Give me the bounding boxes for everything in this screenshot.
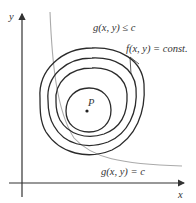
constraint-curve-label: g(x, y) = c: [101, 166, 145, 178]
contour-inner: [66, 88, 111, 132]
constraint-curve: [50, 12, 182, 166]
constraint-region-label: g(x, y) ≤ c: [93, 22, 136, 34]
x-axis-label: x: [177, 189, 183, 200]
level-curves-label: f(x, y) = const.: [126, 43, 188, 55]
point-p-label: P: [87, 97, 95, 108]
lagrange-diagram: P g(x, y) ≤ c f(x, y) = const. g(x, y) =…: [0, 0, 196, 203]
point-p: [85, 109, 88, 112]
y-axis-label: y: [8, 11, 14, 22]
